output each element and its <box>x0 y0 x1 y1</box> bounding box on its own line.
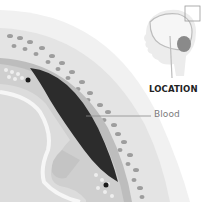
subdural-hematoma-illustration <box>0 0 206 202</box>
vessel-dot <box>26 78 31 83</box>
diagram-canvas: LOCATION Blood <box>0 0 206 202</box>
cerebellum-highlight <box>177 36 191 52</box>
vessel-dot <box>104 183 109 188</box>
head-inset-illustration <box>144 6 200 78</box>
blood-label: Blood <box>154 109 180 119</box>
location-label: LOCATION <box>149 84 198 94</box>
